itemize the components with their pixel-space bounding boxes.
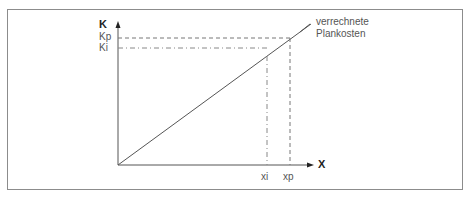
- plankosten-line: [118, 24, 311, 165]
- xp-label: xp: [283, 172, 294, 182]
- x-axis-arrow-icon: [307, 163, 314, 168]
- ki-label: Ki: [99, 43, 108, 53]
- y-axis-arrow-icon: [116, 21, 121, 28]
- diagram-canvas: [0, 0, 473, 199]
- x-axis-label: X: [318, 159, 325, 170]
- y-axis-label: K: [99, 19, 107, 30]
- line-label-line1: verrechnete: [316, 17, 369, 27]
- xi-label: xi: [261, 172, 268, 182]
- label-leader-line: [300, 24, 310, 32]
- kp-label: Kp: [99, 32, 111, 42]
- line-label-line2: Plankosten: [316, 29, 365, 39]
